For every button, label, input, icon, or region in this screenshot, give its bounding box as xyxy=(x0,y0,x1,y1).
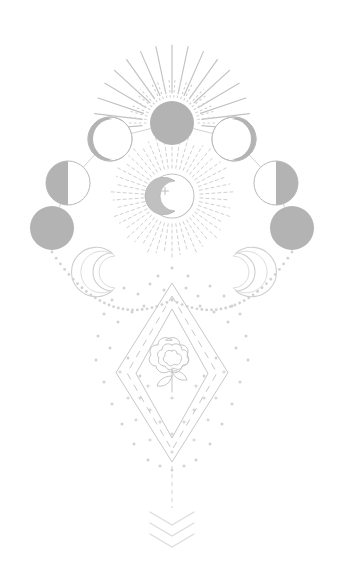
sunburst-dotted-ray xyxy=(192,94,208,107)
swag-dot-left xyxy=(72,278,75,281)
scatter-dot xyxy=(157,275,160,278)
swag-dot-left xyxy=(94,297,97,300)
star-glyph xyxy=(137,395,143,401)
center-ray xyxy=(176,224,180,255)
swag-dot-left xyxy=(55,257,58,260)
scatter-dot xyxy=(203,375,206,378)
center-ray xyxy=(127,215,152,238)
center-ray xyxy=(110,192,144,194)
crescent-left xyxy=(72,247,115,296)
scatter-dot xyxy=(187,275,190,278)
phase-connector xyxy=(83,155,95,167)
swag-dot-right xyxy=(224,307,227,310)
center-ray xyxy=(113,198,144,200)
sunburst-dotted-ray xyxy=(136,94,152,107)
swag-dot-right xyxy=(220,308,223,311)
scatter-dot xyxy=(171,267,174,270)
swag-dot-right xyxy=(171,299,174,302)
sunburst-dotted-ray xyxy=(174,77,175,97)
scatter-dot xyxy=(149,283,152,286)
swag-dot-right xyxy=(205,309,208,312)
scatter-dot xyxy=(133,443,136,446)
swag-dot-right xyxy=(291,251,294,254)
dotted-swag-arcs xyxy=(51,251,294,312)
swag-dot-right xyxy=(191,306,194,309)
swag-dot-left xyxy=(112,305,115,308)
phase-connector xyxy=(193,129,212,134)
scatter-dot xyxy=(117,321,120,324)
swag-dot-left xyxy=(141,308,144,311)
crescent-left-outer xyxy=(72,247,112,296)
swag-dot-right xyxy=(252,293,255,296)
swag-dot-right xyxy=(238,302,241,305)
rose-outer-petals xyxy=(149,338,189,373)
swag-dot-right xyxy=(286,257,289,260)
swag-dot-right xyxy=(234,304,237,307)
sunburst-ray xyxy=(114,70,149,102)
swag-dot-right xyxy=(278,268,281,271)
celestial-artwork-canvas: Celestial Moon Phases with Rose Diamond … xyxy=(0,0,344,583)
swag-dot-right xyxy=(243,299,246,302)
swag-dot-right xyxy=(196,307,199,310)
sunburst-ray xyxy=(200,98,245,113)
phase-full-top xyxy=(150,101,194,145)
crescent-right xyxy=(233,247,276,296)
tail-ornament xyxy=(150,466,194,547)
scatter-dot xyxy=(231,403,234,406)
swag-dot-right xyxy=(181,303,184,306)
rose-leaf-right xyxy=(172,371,187,380)
scatter-dot xyxy=(209,443,212,446)
swag-dot-right xyxy=(265,282,268,285)
rose-inner-petals xyxy=(163,350,181,366)
phase-last-quarter-right xyxy=(254,161,298,205)
center-ray xyxy=(197,209,222,222)
swag-dot-left xyxy=(126,308,129,311)
phase-connector xyxy=(59,204,60,208)
sunburst-dotted-ray xyxy=(163,78,167,98)
scatter-dot xyxy=(209,285,212,288)
scatter-dot xyxy=(137,293,140,296)
swag-dot-right xyxy=(269,278,272,281)
phase-connector xyxy=(283,204,284,208)
scatter-dot xyxy=(213,311,216,314)
sunburst-ray xyxy=(98,98,143,113)
swag-dot-left xyxy=(108,304,111,307)
sunburst-dotted-ray xyxy=(145,85,157,101)
sunburst-ray xyxy=(194,70,229,102)
scatter-dot xyxy=(163,289,166,292)
phase-first-quarter-left xyxy=(46,161,90,205)
swag-dot-right xyxy=(176,301,179,304)
scatter-dot xyxy=(131,311,134,314)
scatter-dot xyxy=(247,359,250,362)
scatter-dot xyxy=(199,305,202,308)
scatter-dot xyxy=(221,423,224,426)
crescent-left-inner xyxy=(81,251,115,293)
scatter-dot xyxy=(223,295,226,298)
star-glyph xyxy=(191,437,197,443)
scatter-dot xyxy=(111,403,114,406)
phase-new-left-disc xyxy=(30,206,74,250)
swag-dot-left xyxy=(98,299,101,302)
phase-first-quarter-left-shadow xyxy=(46,161,68,205)
scatter-dot xyxy=(123,287,126,290)
swag-dot-right xyxy=(247,297,250,300)
center-ray xyxy=(164,141,168,169)
sunburst-ray xyxy=(141,52,160,96)
swag-dot-right xyxy=(200,308,203,311)
rose-motif xyxy=(149,338,189,392)
side-crescent-moons xyxy=(72,247,277,296)
star-glyph xyxy=(193,383,199,389)
scatter-dot xyxy=(95,359,98,362)
swag-dot-left xyxy=(63,268,66,271)
swag-dot-right xyxy=(282,263,285,266)
scatter-dot xyxy=(245,335,248,338)
rose-leaf-left xyxy=(157,376,172,386)
swag-dot-left xyxy=(166,301,169,304)
scatter-dot xyxy=(109,347,112,350)
swag-dot-right xyxy=(215,308,218,311)
center-ray xyxy=(183,145,194,171)
phase-crescent-left xyxy=(81,117,133,161)
phase-new-right xyxy=(270,206,314,250)
swag-dot-right xyxy=(210,309,213,312)
scatter-dot xyxy=(195,459,198,462)
